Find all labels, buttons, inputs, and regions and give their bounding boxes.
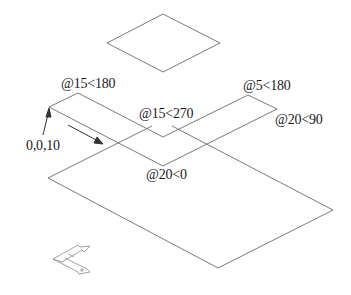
label-seg1: @15<180 — [61, 77, 115, 91]
top-rhombus — [107, 14, 220, 72]
label-seg2: @15<270 — [139, 107, 193, 121]
label-seg3: @5<180 — [243, 79, 291, 93]
label-seg5: @20<0 — [146, 168, 187, 182]
start-point-arrow — [43, 108, 51, 135]
ucs-isometric-icon — [53, 245, 90, 274]
base-parallelogram — [48, 126, 333, 268]
drawing-canvas: 0,0,10 @15<180 @15<270 @5<180 @20<90 @20… — [0, 0, 351, 295]
label-start-point: 0,0,10 — [26, 139, 60, 153]
l-shape-outline — [49, 93, 277, 166]
direction-arrow — [68, 125, 103, 144]
label-seg4: @20<90 — [275, 113, 323, 127]
